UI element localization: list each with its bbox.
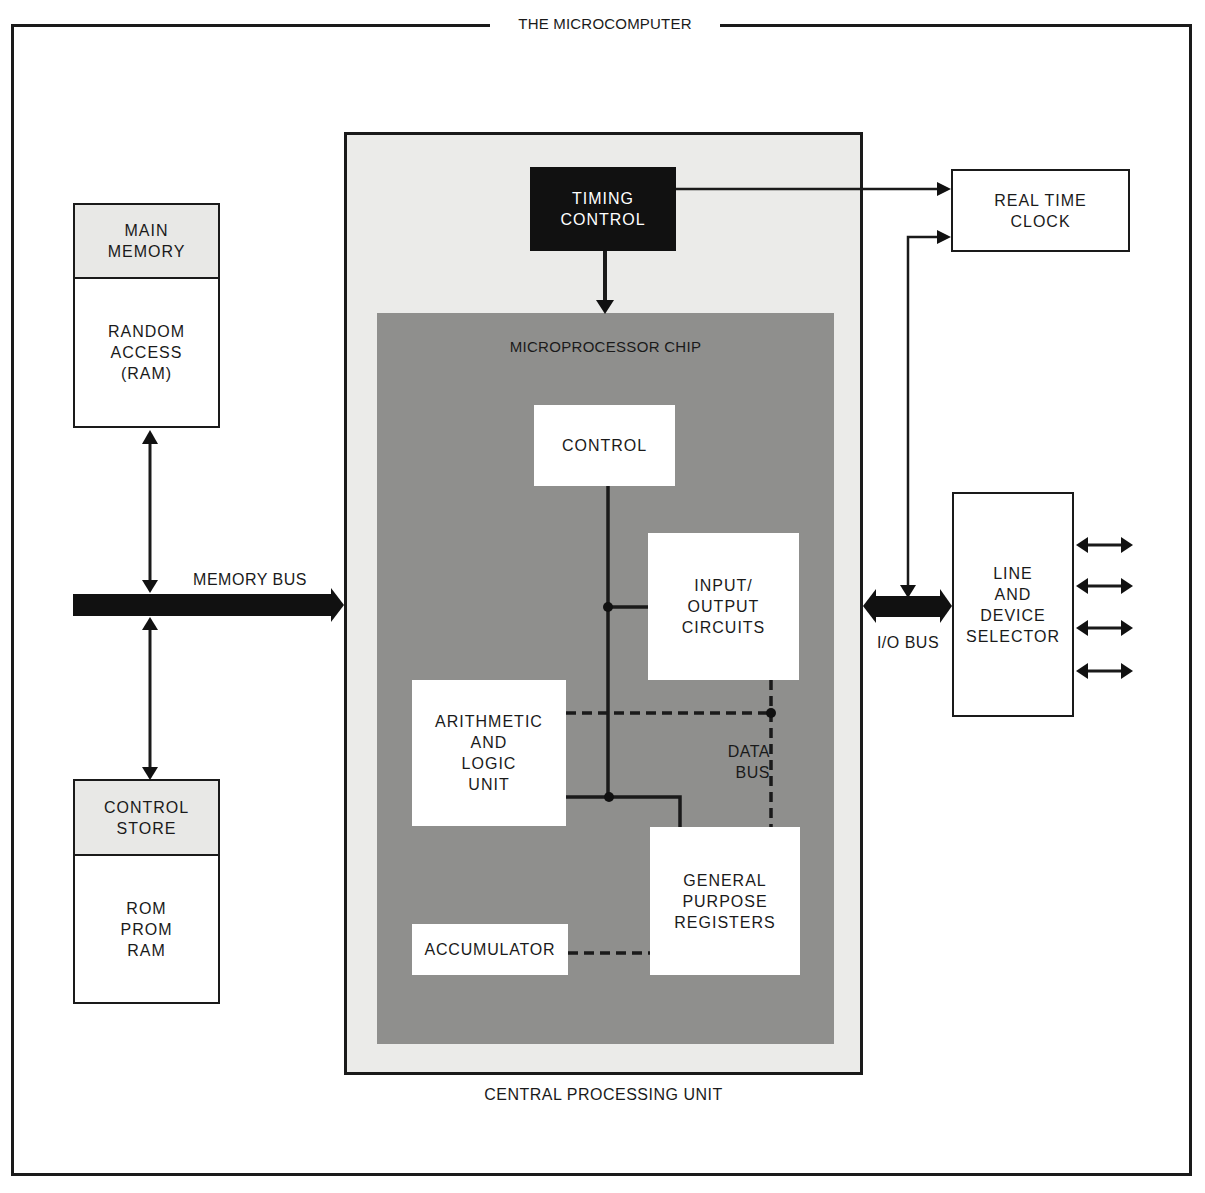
iobus-to-clock-arrow: [908, 237, 938, 588]
device-line-arrows: [1076, 537, 1133, 679]
ram-bus-arrow: [142, 430, 158, 593]
control-store-bus-arrow: [142, 617, 158, 780]
connector-layer: [0, 0, 1205, 1193]
memory-bus-arrow: [73, 588, 344, 622]
data-bus-lines: [566, 680, 771, 953]
control-bus-lines: [566, 486, 680, 827]
